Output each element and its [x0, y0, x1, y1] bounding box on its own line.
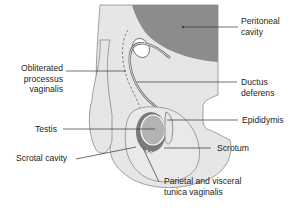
label-line: Peritoneal — [241, 16, 280, 27]
tunica-detail — [146, 150, 149, 153]
label-line: Ductus — [241, 77, 274, 88]
label-obliterated-processus: Obliterated processus vaginalis — [3, 63, 63, 95]
label-line: cavity — [241, 27, 280, 38]
label-peritoneal-cavity: Peritoneal cavity — [241, 16, 280, 37]
tunica-detail — [150, 151, 152, 153]
label-line: deferens — [241, 88, 274, 99]
label-line: Parietal and visceral — [164, 176, 241, 187]
label-line: vaginalis — [3, 84, 63, 95]
label-tunica-vaginalis: Parietal and visceral tunica vaginalis — [164, 176, 241, 197]
label-testis: Testis — [35, 124, 57, 135]
label-line: tunica vaginalis — [164, 187, 241, 198]
label-ductus-deferens: Ductus deferens — [241, 77, 274, 98]
label-line: Obliterated — [3, 63, 63, 74]
label-line: processus — [3, 74, 63, 85]
label-scrotum: Scrotum — [217, 143, 249, 154]
label-epididymis: Epididymis — [242, 115, 284, 126]
testis-shape — [141, 115, 165, 145]
label-scrotal-cavity: Scrotal cavity — [16, 153, 67, 164]
